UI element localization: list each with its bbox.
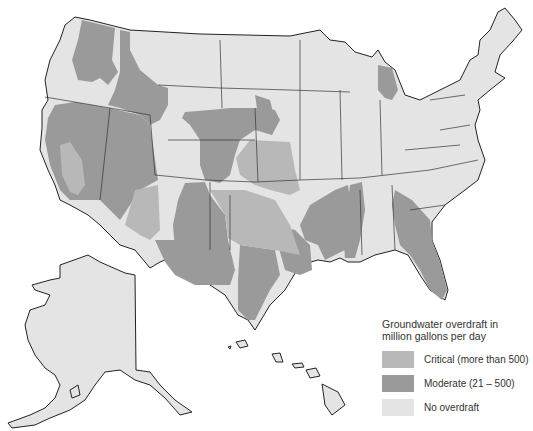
hawaii [228,340,345,415]
legend-title-line-2: million gallons per day [382,330,532,342]
alaska [8,255,192,428]
legend-title-line-1: Groundwater overdraft in [382,318,532,330]
map-legend: Groundwater overdraft in million gallons… [382,318,532,422]
critical-swatch [382,351,414,368]
legend-title: Groundwater overdraft in million gallons… [382,318,532,342]
legend-label: Moderate (21 – 500) [424,378,515,389]
legend-item-none: No overdraft [382,398,532,416]
legend-item-moderate: Moderate (21 – 500) [382,374,532,392]
moderate-swatch [382,375,414,392]
legend-label: No overdraft [424,402,479,413]
no-overdraft-swatch [382,399,414,416]
legend-label: Critical (more than 500) [424,354,528,365]
legend-item-critical: Critical (more than 500) [382,350,532,368]
